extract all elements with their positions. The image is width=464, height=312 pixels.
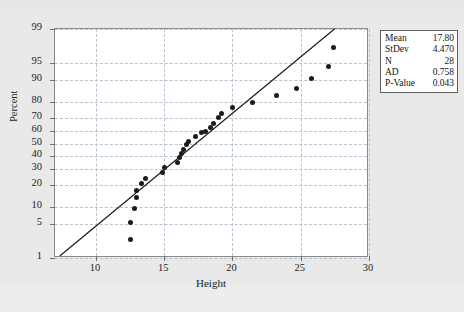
data-point xyxy=(219,111,224,116)
statistics-label: P-Value xyxy=(385,78,418,89)
statistics-label: StDev xyxy=(385,44,412,55)
y-axis-tick xyxy=(50,102,55,103)
data-point xyxy=(139,181,144,186)
x-tick-label: 25 xyxy=(294,262,305,273)
y-axis-tick xyxy=(50,144,55,145)
statistics-row: StDev4.470 xyxy=(385,44,454,55)
gridline-horizontal xyxy=(55,258,367,259)
y-tick-label: 50 xyxy=(32,136,43,147)
y-tick-label: 60 xyxy=(32,123,43,134)
y-axis-tick xyxy=(50,224,55,225)
data-point xyxy=(143,176,148,181)
y-tick-label: 20 xyxy=(32,177,43,188)
y-axis-tick-labels: 151020304050607080909599 xyxy=(0,28,50,257)
y-axis-tick xyxy=(50,80,55,81)
x-axis-tick xyxy=(301,256,302,261)
x-tick-label: 30 xyxy=(363,262,374,273)
statistics-row: Mean17.80 xyxy=(385,33,454,44)
x-axis-tick xyxy=(96,256,97,261)
data-point xyxy=(230,105,235,110)
y-axis-tick xyxy=(50,169,55,170)
page-bottom-band xyxy=(0,286,464,312)
x-tick-label: 15 xyxy=(158,262,169,273)
data-point xyxy=(211,121,216,126)
statistics-label: Mean xyxy=(385,33,410,44)
data-point xyxy=(331,45,336,50)
y-tick-label: 99 xyxy=(32,21,43,32)
y-tick-label: 5 xyxy=(37,216,42,227)
data-point xyxy=(128,237,133,242)
y-tick-label: 90 xyxy=(32,72,43,83)
cropped-title-strip xyxy=(0,0,464,9)
statistics-box: Mean17.80StDev4.470N28AD0.758P-Value0.04… xyxy=(380,30,458,93)
statistics-label: AD xyxy=(385,67,402,78)
statistics-value: 28 xyxy=(445,56,455,67)
cropped-title-ghost xyxy=(70,0,73,4)
y-axis-tick xyxy=(50,63,55,64)
plot-area xyxy=(54,28,368,257)
y-tick-label: 10 xyxy=(32,199,43,210)
data-point xyxy=(186,139,191,144)
y-axis-tick xyxy=(50,118,55,119)
statistics-value: 4.470 xyxy=(433,44,454,55)
statistics-value: 0.043 xyxy=(433,78,454,89)
data-point xyxy=(203,129,208,134)
probability-plot-page: Percent 151020304050607080909599 1015202… xyxy=(0,0,464,312)
x-tick-label: 10 xyxy=(90,262,101,273)
data-point xyxy=(132,206,137,211)
y-tick-label: 80 xyxy=(32,94,43,105)
normal-reference-line xyxy=(55,29,367,256)
data-point xyxy=(181,147,186,152)
y-axis-tick xyxy=(50,29,55,30)
statistics-value: 0.758 xyxy=(433,67,454,78)
x-tick-label: 20 xyxy=(226,262,237,273)
y-tick-label: 30 xyxy=(32,161,43,172)
data-point xyxy=(274,93,279,98)
y-axis-tick xyxy=(50,131,55,132)
x-axis-tick xyxy=(232,256,233,261)
y-axis-tick xyxy=(50,156,55,157)
data-point xyxy=(162,165,167,170)
statistics-value: 17.80 xyxy=(433,33,454,44)
statistics-row: AD0.758 xyxy=(385,67,454,78)
y-axis-tick xyxy=(50,258,55,259)
y-tick-label: 1 xyxy=(37,250,42,261)
y-axis-tick xyxy=(50,207,55,208)
x-axis-tick xyxy=(369,256,370,261)
data-point xyxy=(128,220,133,225)
y-tick-label: 40 xyxy=(32,148,43,159)
gridline-vertical xyxy=(369,29,370,256)
x-axis-title: Height xyxy=(54,277,368,289)
statistics-row: N28 xyxy=(385,56,454,67)
y-tick-label: 70 xyxy=(32,110,43,121)
statistics-row: P-Value0.043 xyxy=(385,78,454,89)
x-axis-tick xyxy=(164,256,165,261)
statistics-label: N xyxy=(385,56,395,67)
y-axis-tick xyxy=(50,185,55,186)
y-tick-label: 95 xyxy=(32,55,43,66)
data-point xyxy=(294,86,299,91)
